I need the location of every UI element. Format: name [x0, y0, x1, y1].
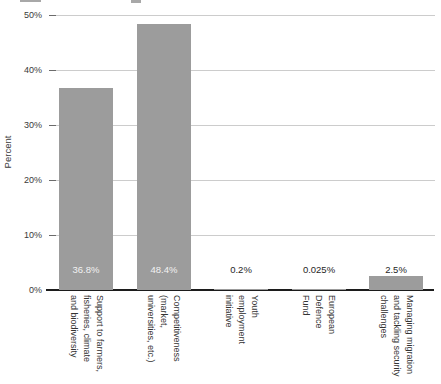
y-axis-tick: [49, 180, 56, 181]
y-axis-tick-label: 50%: [10, 10, 42, 21]
gridline: [49, 15, 435, 16]
bar-value-label: 0.2%: [209, 264, 273, 276]
bar-value-label: 36.8%: [54, 264, 118, 276]
gridline: [49, 70, 435, 71]
bar: [292, 289, 346, 290]
y-axis-tick-label: 30%: [10, 120, 42, 131]
y-axis-tick-label: 20%: [10, 175, 42, 186]
y-axis-tick-label: 40%: [10, 65, 42, 76]
bar-value-label: 2.5%: [364, 264, 428, 276]
x-axis-label: Competitiveness (market, universities, e…: [144, 295, 183, 363]
x-axis-label: Managing migration and tackling security…: [377, 295, 416, 377]
bar: [137, 24, 191, 290]
bar-value-label: 0.025%: [287, 264, 351, 276]
y-axis-tick: [49, 15, 56, 16]
bar: [369, 276, 423, 290]
y-axis-tick: [49, 125, 56, 126]
cropped-caption-fragment: [131, 0, 141, 3]
x-axis-label: Youth employment initiative: [222, 295, 261, 344]
y-axis-tick-label: 0%: [10, 285, 42, 296]
y-axis-tick: [49, 70, 56, 71]
x-axis-label: European Defence Fund: [299, 295, 338, 334]
y-axis-tick-label: 10%: [10, 230, 42, 241]
bar-chart-figure: Percent 0%10%20%30%40%50% 36.8%48.4%0.2%…: [0, 0, 441, 384]
y-axis-tick: [49, 235, 56, 236]
cropped-caption-fragment: [20, 0, 41, 2]
bar: [214, 289, 268, 290]
x-axis-label: Support to farmers, fisheries, climate a…: [67, 295, 106, 372]
bar: [59, 88, 113, 290]
y-axis-title: Percent: [2, 122, 14, 182]
bar-value-label: 48.4%: [132, 264, 196, 276]
